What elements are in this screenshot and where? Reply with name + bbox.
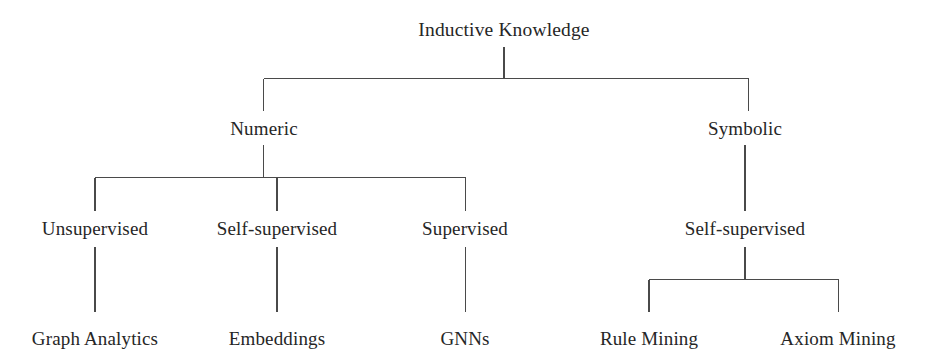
node-symbolic: Symbolic [708, 119, 782, 138]
node-numeric-self-supervised: Self-supervised [217, 219, 337, 238]
node-gnns: GNNs [440, 329, 489, 348]
connector-lines-group [0, 0, 935, 359]
node-symbolic-self-supervised: Self-supervised [685, 219, 805, 238]
node-inductive-knowledge: Inductive Knowledge [418, 20, 589, 40]
node-numeric-unsupervised: Unsupervised [42, 219, 148, 238]
node-numeric: Numeric [230, 119, 298, 138]
node-rule-mining: Rule Mining [600, 329, 698, 348]
node-embeddings: Embeddings [229, 329, 326, 348]
inductive-knowledge-taxonomy-diagram: Inductive Knowledge Numeric Symbolic Uns… [0, 0, 935, 359]
node-graph-analytics: Graph Analytics [32, 329, 158, 348]
node-axiom-mining: Axiom Mining [780, 329, 895, 348]
node-numeric-supervised: Supervised [422, 219, 508, 238]
